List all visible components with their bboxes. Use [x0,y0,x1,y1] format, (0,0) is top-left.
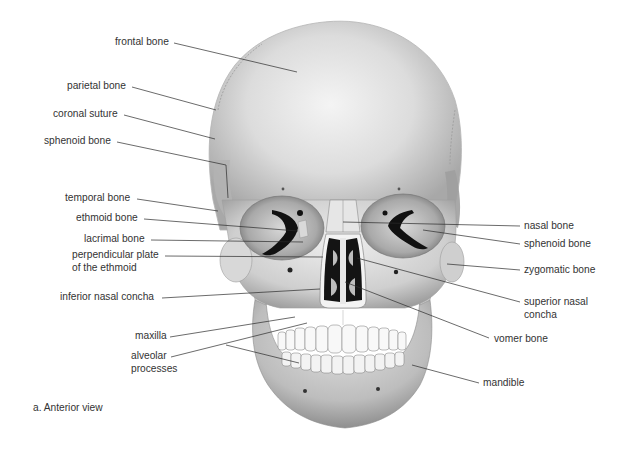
label-lacrimal-bone: lacrimal bone [84,233,145,246]
label-ethmoid-bone: ethmoid bone [76,212,138,225]
right-orbit [361,194,445,258]
label-nasal-bone: nasal bone [524,220,574,233]
label-superior-nasal-concha-line1: superior nasal [524,296,588,309]
label-perpendicular-plate-line1: perpendicular plate [72,249,159,262]
label-alveolar-processes: alveolar processes [131,350,177,375]
label-frontal-bone: frontal bone [115,36,169,49]
label-superior-nasal-concha: superior nasal concha [524,296,588,321]
label-parietal-bone: parietal bone [67,80,126,93]
label-alveolar-processes-line1: alveolar [131,350,177,363]
label-vomer-bone: vomer bone [494,333,548,346]
label-mandible: mandible [483,377,524,390]
label-sphenoid-bone-left: sphenoid bone [44,135,111,148]
label-sphenoid-bone-right: sphenoid bone [524,238,591,251]
label-temporal-bone: temporal bone [65,192,130,205]
left-orbit [240,196,324,260]
label-alveolar-processes-line2: processes [131,363,177,376]
label-coronal-suture: coronal suture [53,108,118,121]
label-perpendicular-plate: perpendicular plate of the ethmoid [72,249,159,274]
upper-teeth [278,325,406,353]
label-perpendicular-plate-line2: of the ethmoid [72,262,159,275]
skull-diagram: frontal bone parietal bone coronal sutur… [0,0,631,454]
label-zygomatic-bone: zygomatic bone [524,264,595,277]
label-superior-nasal-concha-line2: concha [524,309,588,322]
figure-caption: a. Anterior view [33,402,103,413]
label-inferior-nasal-concha: inferior nasal concha [60,291,154,304]
label-maxilla: maxilla [135,330,167,343]
